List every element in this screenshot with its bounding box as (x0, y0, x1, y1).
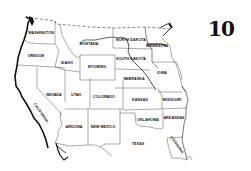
baja-coast (56, 143, 68, 160)
state-label-kansas: KANSAS (132, 98, 148, 102)
state-label-missouri: MISSOURI (163, 98, 182, 102)
state-label-oregon: OREGON (28, 54, 45, 58)
state-label-arizona: ARIZONA (65, 125, 82, 129)
state-label-nevada: NEVADA (46, 93, 62, 97)
state-label-texas: TEXAS (132, 142, 144, 146)
state-label-iowa: IOWA (157, 71, 167, 75)
state-label-colorado: COLORADO (93, 95, 115, 99)
state-label-montana: MONTANA (80, 42, 99, 46)
state-label-arkansas: ARKANSAS (163, 116, 184, 120)
page-number: 10 (208, 17, 234, 41)
state-label-utah: UTAH (71, 93, 81, 97)
canada-border (25, 17, 172, 29)
state-label-north-dakota: NORTH DAKOTA (116, 38, 146, 42)
state-label-oklahoma: OKLAHOMA (137, 118, 159, 122)
pacific-coastline (15, 17, 48, 148)
state-label-washington: WASHINGTON (28, 31, 54, 35)
state-label-new-mexico: NEW MEXICO (91, 125, 116, 129)
state-label-minnesota: MINNESOTA (146, 44, 168, 48)
state-label-wyoming: WYOMING (88, 65, 107, 69)
state-label-south-dakota: SOUTH DAKOTA (116, 57, 146, 61)
state-label-idaho: IDAHO (61, 61, 73, 65)
state-label-nebraska: NEBRASKA (123, 77, 144, 81)
